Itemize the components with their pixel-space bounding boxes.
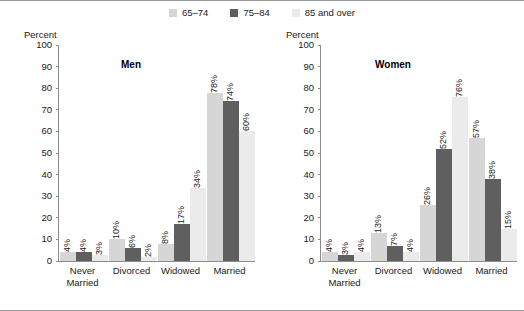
bar-group: 13%7%4% (370, 45, 419, 261)
legend-swatch-85-and-over (292, 9, 300, 17)
bar-value-label: 74% (225, 83, 234, 101)
bar-value-label: 78% (209, 75, 218, 93)
bar[interactable]: 2% (141, 257, 157, 261)
x-axis-label-line: Never (320, 265, 369, 277)
bar-value-label: 38% (487, 161, 496, 179)
legend-label-85-and-over: 85 and over (305, 8, 355, 18)
bar[interactable]: 4% (76, 252, 92, 261)
x-axis-label: Divorced (107, 265, 156, 289)
bar-value-label: 4% (356, 239, 365, 252)
bar-groups-men: 4%4%3%10%6%2%8%17%34%78%74%60% (59, 45, 255, 261)
bar-value-label: 8% (160, 231, 169, 244)
bar-value-label: 52% (438, 131, 447, 149)
bar-value-label: 3% (94, 242, 103, 255)
x-axis-label-line: Married (205, 265, 254, 277)
bar-value-label: 26% (422, 187, 431, 205)
x-axis-label: Widowed (418, 265, 467, 289)
bar[interactable]: 7% (387, 246, 403, 261)
bar-group: 8%17%34% (157, 45, 206, 261)
bar-value-label: 3% (340, 242, 349, 255)
bar[interactable]: 57% (469, 138, 485, 261)
x-axis-label: Married (205, 265, 254, 289)
bar[interactable]: 26% (420, 205, 436, 261)
bar-group: 57%38%15% (468, 45, 517, 261)
legend-item-65-74: 65–74 (169, 8, 208, 18)
legend-swatch-65-74 (169, 9, 177, 17)
plot-area-women: 1009080706050403020100 4%3%4%13%7%4%26%5… (320, 45, 517, 262)
legend-item-75-84: 75–84 (230, 8, 269, 18)
bar[interactable]: 6% (125, 248, 141, 261)
bar-group: 4%3%4% (321, 45, 370, 261)
x-axis-label-line: Married (58, 277, 107, 289)
panel-men: Percent Men 1009080706050403020100 4%4%3… (2, 29, 260, 304)
x-axis-label: NeverMarried (58, 265, 107, 289)
bar-value-label: 76% (454, 79, 463, 97)
x-axis-label-line: Divorced (107, 265, 156, 277)
bar[interactable]: 60% (239, 131, 255, 261)
bar[interactable]: 38% (485, 179, 501, 261)
bar[interactable]: 15% (501, 229, 517, 261)
bar[interactable]: 3% (92, 255, 108, 261)
x-axis-label-line: Married (320, 277, 369, 289)
x-axis-label-line: Widowed (418, 265, 467, 277)
bar-value-label: 4% (78, 239, 87, 252)
bar[interactable]: 13% (371, 233, 387, 261)
bar-groups-women: 4%3%4%13%7%4%26%52%76%57%38%15% (321, 45, 517, 261)
plot-area-men: 1009080706050403020100 4%4%3%10%6%2%8%17… (58, 45, 255, 262)
bar-group: 10%6%2% (108, 45, 157, 261)
bar[interactable]: 4% (322, 252, 338, 261)
bar[interactable]: 17% (174, 224, 190, 261)
bar-value-label: 4% (324, 239, 333, 252)
legend-swatch-75-84 (230, 9, 238, 17)
bar[interactable]: 8% (158, 244, 174, 261)
chart-figure: 65–74 75–84 85 and over Percent Men 1009… (0, 0, 524, 311)
bar-value-label: 60% (241, 113, 250, 131)
x-axis-label-line: Divorced (369, 265, 418, 277)
chart-legend: 65–74 75–84 85 and over (0, 8, 524, 18)
bar-value-label: 4% (405, 239, 414, 252)
bar[interactable]: 76% (452, 97, 468, 261)
bar[interactable]: 4% (354, 252, 370, 261)
x-axis-label-line: Widowed (156, 265, 205, 277)
bar[interactable]: 10% (109, 239, 125, 261)
x-axis-label: Divorced (369, 265, 418, 289)
bar[interactable]: 34% (190, 188, 206, 261)
bar-value-label: 4% (62, 239, 71, 252)
bar-group: 78%74%60% (206, 45, 255, 261)
bar-value-label: 7% (389, 233, 398, 246)
bar-value-label: 6% (127, 235, 136, 248)
x-axis-label: Widowed (156, 265, 205, 289)
bar[interactable]: 74% (223, 101, 239, 261)
bar-value-label: 57% (471, 120, 480, 138)
x-axis-labels-women: NeverMarriedDivorcedWidowedMarried (320, 265, 516, 289)
bar[interactable]: 4% (60, 252, 76, 261)
panel-women: Percent Women 1009080706050403020100 4%3… (264, 29, 522, 304)
bar-group: 4%4%3% (59, 45, 108, 261)
legend-label-65-74: 65–74 (182, 8, 208, 18)
bar[interactable]: 3% (338, 255, 354, 261)
bar-value-label: 34% (192, 170, 201, 188)
bar-value-label: 10% (111, 221, 120, 239)
bar[interactable]: 4% (403, 252, 419, 261)
legend-item-85-and-over: 85 and over (292, 8, 355, 18)
bar-value-label: 2% (143, 244, 152, 257)
bar-value-label: 15% (503, 211, 512, 229)
x-axis-labels-men: NeverMarriedDivorcedWidowedMarried (58, 265, 254, 289)
bar-group: 26%52%76% (419, 45, 468, 261)
x-axis-label: Married (467, 265, 516, 289)
legend-label-75-84: 75–84 (243, 8, 269, 18)
x-axis-label-line: Never (58, 265, 107, 277)
bar-value-label: 17% (176, 206, 185, 224)
bar[interactable]: 52% (436, 149, 452, 261)
bar-value-label: 13% (373, 215, 382, 233)
x-axis-label-line: Married (467, 265, 516, 277)
bar[interactable]: 78% (207, 93, 223, 261)
x-axis-label: NeverMarried (320, 265, 369, 289)
